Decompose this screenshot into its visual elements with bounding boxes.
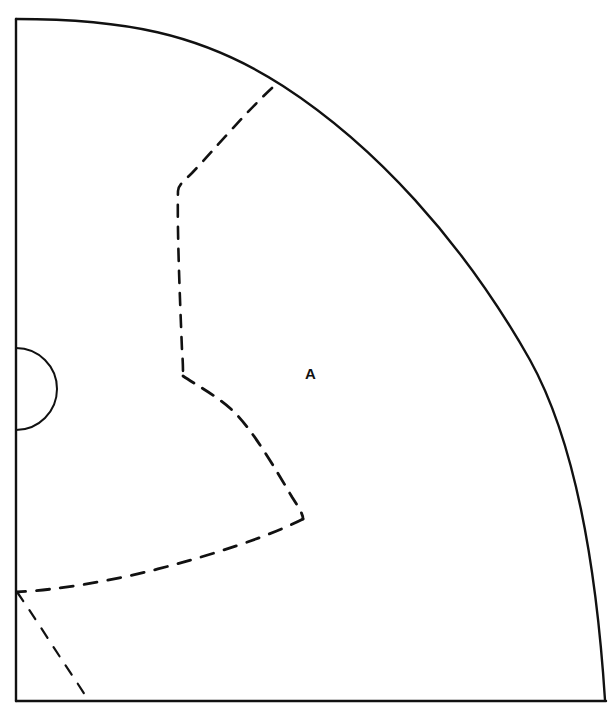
quadrant-diagram [0, 0, 611, 717]
figure-background [0, 0, 611, 717]
figure-canvas: A [0, 0, 611, 717]
region-label-a: A [305, 366, 316, 381]
